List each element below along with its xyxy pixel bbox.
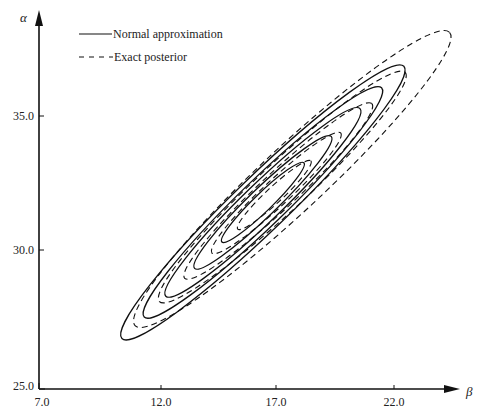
y-axis-arrow-icon — [35, 10, 43, 26]
y-tick-label: 25.0 — [13, 379, 34, 393]
normal-approximation-contours — [103, 47, 422, 358]
y-tick-label: 30.0 — [13, 243, 34, 257]
normal-contour-4 — [128, 71, 397, 333]
exact-contour-4 — [143, 55, 421, 319]
x-axis-arrow-icon — [444, 385, 460, 393]
legend-item-exact: Exact posterior — [79, 50, 187, 64]
legend-item-normal: Normal approximation — [79, 27, 223, 41]
x-axis-symbol: β — [465, 384, 473, 399]
normal-contour-2 — [185, 126, 341, 278]
x-tick-label: 7.0 — [35, 395, 50, 409]
x-tick-label: 22.0 — [384, 395, 405, 409]
normal-contour-3 — [153, 95, 374, 310]
legend-label-exact: Exact posterior — [114, 50, 187, 64]
contour-chart: α β 7.012.017.022.0 25.030.035.0 Normal … — [0, 0, 483, 420]
y-axis-symbol: α — [20, 10, 28, 25]
x-tick-label: 17.0 — [266, 395, 287, 409]
y-tick-label: 35.0 — [13, 109, 34, 123]
legend: Normal approximation Exact posterior — [79, 27, 223, 64]
exact-contour-3 — [172, 91, 384, 292]
exact-contour-2 — [203, 123, 349, 262]
legend-label-normal: Normal approximation — [113, 27, 223, 41]
x-tick-label: 12.0 — [151, 395, 172, 409]
normal-contour-5 — [103, 47, 422, 358]
origin-corner-mark — [39, 383, 45, 389]
